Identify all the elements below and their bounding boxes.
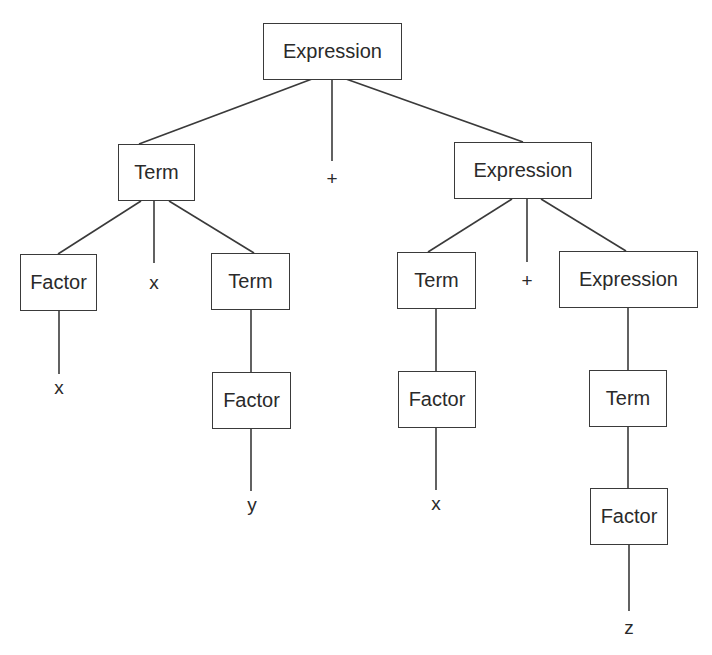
- leaf-plus-top: +: [326, 169, 337, 188]
- leaf-y: y: [247, 495, 257, 514]
- leaf-times-left: x: [149, 273, 159, 292]
- node-term-rr: Term: [589, 370, 667, 427]
- node-term-left: Term: [118, 144, 195, 201]
- node-expression-rr: Expression: [559, 251, 698, 308]
- leaf-x1: x: [54, 378, 64, 397]
- edge-expr-term: [428, 199, 512, 252]
- node-term-lr: Term: [211, 253, 290, 310]
- leaf-x2: x: [431, 494, 441, 513]
- node-root-expression: Expression: [263, 23, 402, 80]
- node-term-rl: Term: [397, 252, 476, 309]
- leaf-plus-right: +: [521, 271, 532, 290]
- edge-root-expression: [346, 79, 523, 142]
- node-factor-lr: Factor: [212, 372, 291, 429]
- edge-term-term: [169, 201, 254, 253]
- edge-root-term: [139, 79, 312, 144]
- node-factor-rl: Factor: [398, 371, 476, 428]
- edge-expr-expr: [541, 199, 626, 251]
- leaf-z: z: [624, 618, 634, 637]
- node-expression-right: Expression: [454, 142, 592, 199]
- edge-term-factor: [58, 201, 141, 254]
- node-factor-ll: Factor: [20, 254, 97, 311]
- node-factor-rr: Factor: [590, 488, 668, 545]
- tree-edges: [0, 0, 712, 655]
